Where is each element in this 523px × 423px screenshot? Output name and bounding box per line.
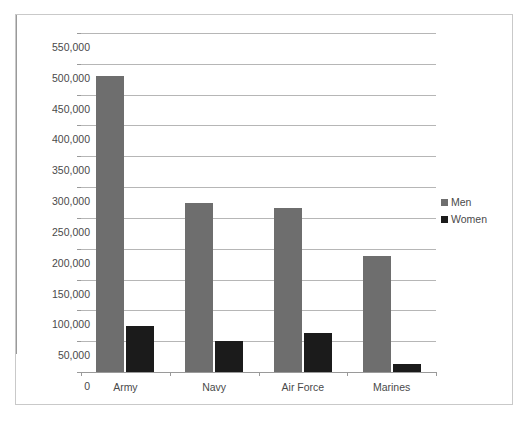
bar-marines-women	[393, 364, 421, 372]
bar-navy-women	[215, 341, 243, 372]
y-axis-tick-labels: 550,000500,000450,000400,000350,000300,0…	[22, 47, 90, 386]
chart-title	[15, 0, 513, 8]
gridline	[81, 156, 436, 157]
bar-air-force-men	[274, 208, 302, 372]
gridline	[81, 125, 436, 126]
gridline	[81, 249, 436, 250]
x-axis-tick-label: Army	[81, 381, 170, 393]
gridline	[81, 64, 436, 65]
legend-label-women: Women	[451, 214, 487, 225]
gridline	[81, 95, 436, 96]
gridline	[81, 33, 436, 34]
bar-army-men	[96, 76, 124, 372]
legend-swatch-women-icon	[441, 216, 448, 223]
y-axis-tick	[77, 187, 81, 188]
y-axis-tick	[77, 156, 81, 157]
legend-item-women: Women	[441, 211, 507, 228]
y-axis-tick	[77, 249, 81, 250]
y-axis-line	[16, 15, 17, 354]
y-axis-tick	[77, 341, 81, 342]
bar-army-women	[126, 326, 154, 372]
legend-swatch-men-icon	[441, 199, 448, 206]
x-axis-tick-label: Navy	[170, 381, 259, 393]
chart-frame: 550,000500,000450,000400,000350,000300,0…	[15, 14, 513, 405]
plot-area	[81, 33, 436, 372]
y-axis-tick	[77, 218, 81, 219]
legend-label-men: Men	[451, 197, 471, 208]
y-axis-tick	[77, 64, 81, 65]
x-axis-tick-labels: ArmyNavyAir ForceMarines	[81, 381, 436, 397]
chart-legend: Men Women	[441, 194, 507, 228]
legend-item-men: Men	[441, 194, 507, 211]
x-axis-tick	[436, 372, 437, 376]
y-axis-tick	[77, 310, 81, 311]
y-axis-tick	[77, 125, 81, 126]
x-axis-tick-label: Marines	[347, 381, 436, 393]
x-axis-tick-label: Air Force	[259, 381, 348, 393]
gridline	[81, 218, 436, 219]
x-axis-tick	[81, 372, 82, 376]
bar-marines-men	[363, 256, 391, 372]
gridline	[81, 187, 436, 188]
y-axis-tick	[77, 280, 81, 281]
x-axis-tick	[259, 372, 260, 376]
y-axis-tick	[77, 33, 81, 34]
bar-navy-men	[185, 203, 213, 373]
bar-air-force-women	[304, 333, 332, 372]
x-axis-tick	[170, 372, 171, 376]
x-axis-tick	[347, 372, 348, 376]
y-axis-tick	[77, 95, 81, 96]
